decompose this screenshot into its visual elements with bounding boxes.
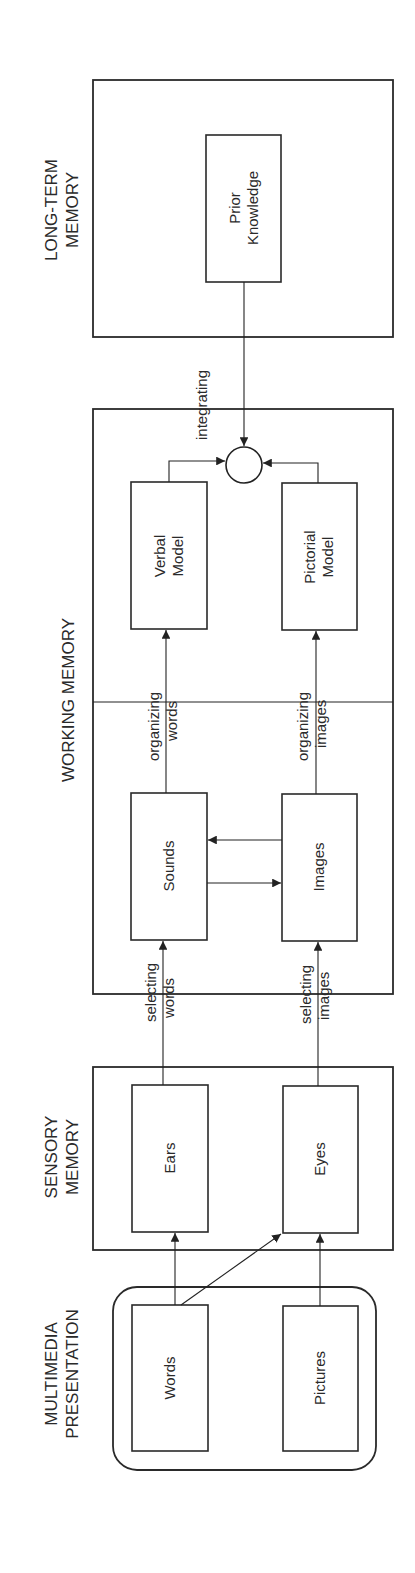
sensory-label-line2: MEMORY [63, 1119, 82, 1195]
sensory-memory-label: SENSORY MEMORY [42, 1116, 82, 1199]
verbal-model-label-line1: Verbal [151, 535, 168, 578]
working-label-line1: WORKING MEMORY [59, 618, 78, 782]
selecting-images-label-line1: selecting [297, 965, 314, 1024]
sensory-label-line1: SENSORY [42, 1116, 61, 1199]
ears-label: Ears [161, 1143, 178, 1174]
selecting-words-label-line1: selecting [142, 963, 159, 1022]
pictures-label: Pictures [311, 1351, 328, 1405]
selecting-images-label-line2: images [315, 972, 332, 1020]
images-label: Images [310, 842, 327, 891]
pictorial-model-label-line2: Model [319, 537, 336, 578]
working-memory-label: WORKING MEMORY [59, 618, 78, 782]
longterm-label-line2: MEMORY [63, 172, 82, 248]
pictorial-model-label-line1: Pictorial [301, 530, 318, 583]
cognitive-theory-diagram: MULTIMEDIA PRESENTATION SENSORY MEMORY W… [0, 0, 415, 1573]
organizing-words-label-line2: words [163, 701, 180, 742]
organizing-images-label-line2: images [312, 700, 329, 748]
prior-knowledge-label-line1: Prior [226, 192, 243, 224]
words-label: Words [161, 1356, 178, 1399]
integrating-label: integrating [193, 370, 210, 440]
prior-knowledge-label-line2: Knowledge [244, 171, 261, 245]
integration-circle [226, 447, 262, 483]
multimedia-label-line2: PRESENTATION [63, 1309, 82, 1439]
sounds-label: Sounds [160, 841, 177, 892]
organizing-words-label-line1: organizing [145, 692, 162, 761]
verbal-model-label-line2: Model [169, 536, 186, 577]
selecting-words-label-line2: words [160, 978, 177, 1019]
organizing-images-label-line1: organizing [294, 692, 311, 761]
multimedia-label-line1: MULTIMEDIA [42, 1322, 61, 1426]
longterm-label-line1: LONG-TERM [42, 159, 61, 261]
long-term-memory-label: LONG-TERM MEMORY [42, 159, 82, 261]
multimedia-presentation-label: MULTIMEDIA PRESENTATION [42, 1309, 82, 1439]
eyes-label: Eyes [311, 1142, 328, 1175]
